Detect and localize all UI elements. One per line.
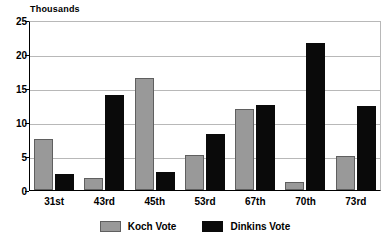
y-tick-label: 20 [7, 50, 27, 61]
bar [206, 134, 225, 190]
bar [55, 174, 74, 190]
bar [84, 178, 103, 190]
y-tick-label: 15 [7, 84, 27, 95]
chart-legend: Koch VoteDinkins Vote [0, 221, 390, 232]
bars-layer [30, 22, 380, 190]
x-tick-label: 53rd [178, 196, 232, 207]
plot-area [29, 21, 381, 191]
x-tick-label: 43rd [77, 196, 131, 207]
bar-group [281, 22, 331, 190]
legend-label: Dinkins Vote [230, 221, 290, 232]
bar [357, 106, 376, 190]
legend-label: Koch Vote [128, 221, 177, 232]
legend-swatch-icon [100, 221, 121, 232]
bar-group [181, 22, 231, 190]
bar [336, 156, 355, 190]
y-axis-title: Thousands [30, 4, 80, 14]
y-tick-label: 25 [7, 16, 27, 27]
bar [285, 182, 304, 190]
x-tick-label: 73rd [329, 196, 383, 207]
bar [306, 43, 325, 190]
y-tick-mark [25, 191, 29, 192]
legend-swatch-icon [202, 221, 223, 232]
y-tick-label: 10 [7, 118, 27, 129]
bar [105, 95, 124, 190]
y-tick-label: 5 [7, 152, 27, 163]
legend-entry[interactable]: Dinkins Vote [202, 221, 290, 232]
bar-group [332, 22, 382, 190]
bar [156, 172, 175, 190]
x-tick-label: 45th [128, 196, 182, 207]
bar-group [80, 22, 130, 190]
x-tick-label: 70th [279, 196, 333, 207]
bar [34, 139, 53, 190]
bar [185, 155, 204, 190]
bar-chart: Thousands 0510152025 31st43rd45th53rd67t… [0, 0, 390, 249]
bar-group [30, 22, 80, 190]
bar [135, 78, 154, 190]
legend-entry[interactable]: Koch Vote [100, 221, 177, 232]
bar-group [131, 22, 181, 190]
x-tick-label: 31st [27, 196, 81, 207]
bar [256, 105, 275, 190]
y-tick-label: 0 [7, 186, 27, 197]
bar [235, 109, 254, 190]
x-tick-label: 67th [228, 196, 282, 207]
bar-group [231, 22, 281, 190]
